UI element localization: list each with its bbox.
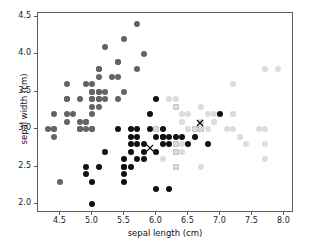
- data-point: [89, 104, 95, 110]
- data-point: [64, 81, 70, 87]
- data-point: [102, 44, 108, 50]
- data-point: [64, 119, 70, 125]
- x-tick-mark: [219, 212, 220, 215]
- data-point: [51, 134, 57, 140]
- data-point: [83, 81, 89, 87]
- data-points-layer: [38, 13, 292, 211]
- data-point: [160, 134, 166, 140]
- data-point: [217, 111, 223, 117]
- data-point: [134, 21, 140, 27]
- data-point: [83, 126, 89, 132]
- data-point: [128, 164, 134, 170]
- data-point: [179, 134, 185, 140]
- data-point: [102, 89, 108, 95]
- data-point: [262, 126, 268, 132]
- data-point: [230, 81, 236, 87]
- data-point: [179, 111, 185, 117]
- data-point: [185, 126, 191, 132]
- data-point: [262, 156, 268, 162]
- x-tick-mark: [187, 212, 188, 215]
- data-point: [173, 149, 179, 155]
- data-point: [166, 134, 172, 140]
- scatter-plot-figure: 4.55.05.56.06.57.07.58.0 2.02.53.03.54.0…: [0, 0, 313, 245]
- data-point: [89, 201, 95, 207]
- data-point: [141, 156, 147, 162]
- data-point: [121, 171, 127, 177]
- data-point: [128, 149, 134, 155]
- data-point: [179, 119, 185, 125]
- centroid-x-marker: [195, 119, 204, 128]
- y-tick-mark: [34, 203, 37, 204]
- data-point: [166, 96, 172, 102]
- data-point: [185, 141, 191, 147]
- data-point: [96, 89, 102, 95]
- data-point: [96, 66, 102, 72]
- data-point: [109, 74, 115, 80]
- x-tick-label: 5.5: [106, 216, 140, 226]
- data-point: [237, 134, 243, 140]
- data-point: [96, 96, 102, 102]
- data-point: [243, 141, 249, 147]
- data-point: [89, 89, 95, 95]
- data-point: [173, 134, 179, 140]
- y-tick-mark: [34, 128, 37, 129]
- x-tick-label: 6.5: [170, 216, 204, 226]
- data-point: [70, 111, 76, 117]
- data-point: [230, 126, 236, 132]
- centroid-x-marker: [146, 143, 155, 152]
- data-point: [134, 126, 140, 132]
- data-point: [173, 104, 179, 110]
- data-point: [102, 96, 108, 102]
- data-point: [57, 179, 63, 185]
- data-point: [160, 156, 166, 162]
- x-tick-label: 7.0: [202, 216, 236, 226]
- x-tick-label: 6.0: [138, 216, 172, 226]
- data-point: [45, 126, 51, 132]
- data-point: [128, 141, 134, 147]
- x-axis-label: sepal length (cm): [37, 228, 293, 238]
- data-point: [153, 186, 159, 192]
- y-tick-label: 2.0: [0, 198, 31, 208]
- x-tick-label: 4.5: [42, 216, 76, 226]
- data-point: [173, 164, 179, 170]
- data-point: [77, 126, 83, 132]
- data-point: [115, 126, 121, 132]
- data-point: [96, 74, 102, 80]
- data-point: [121, 36, 127, 42]
- data-point: [198, 164, 204, 170]
- data-point: [121, 156, 127, 162]
- data-point: [211, 119, 217, 125]
- data-point: [166, 186, 172, 192]
- data-point: [89, 96, 95, 102]
- data-point: [128, 126, 134, 132]
- plot-area: [37, 12, 293, 212]
- data-point: [230, 111, 236, 117]
- data-point: [83, 171, 89, 177]
- data-point: [160, 126, 166, 132]
- x-tick-mark: [155, 212, 156, 215]
- data-point: [96, 104, 102, 110]
- data-point: [102, 149, 108, 155]
- data-point: [83, 164, 89, 170]
- data-point: [121, 179, 127, 185]
- y-tick-mark: [34, 91, 37, 92]
- data-point: [115, 59, 121, 65]
- data-point: [89, 179, 95, 185]
- data-point: [64, 111, 70, 117]
- y-tick-mark: [34, 53, 37, 54]
- data-point: [205, 126, 211, 132]
- data-point: [89, 126, 95, 132]
- data-point: [77, 119, 83, 125]
- data-point: [64, 96, 70, 102]
- data-point: [134, 134, 140, 140]
- data-point: [166, 141, 172, 147]
- data-point: [173, 96, 179, 102]
- y-tick-mark: [34, 16, 37, 17]
- data-point: [256, 126, 262, 132]
- data-point: [173, 141, 179, 147]
- data-point: [153, 134, 159, 140]
- data-point: [192, 134, 198, 140]
- y-axis-label: sepal width (cm): [19, 44, 29, 174]
- data-point: [275, 66, 281, 72]
- data-point: [51, 111, 57, 117]
